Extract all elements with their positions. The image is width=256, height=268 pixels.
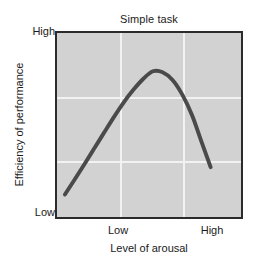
plot-area xyxy=(55,31,243,219)
x-axis-tick-low: Low xyxy=(98,224,138,237)
x-axis-title: Level of arousal xyxy=(55,242,243,255)
chart-title: Simple task xyxy=(55,13,243,26)
y-axis-tick-high: High xyxy=(32,25,55,38)
y-axis-tick-low: Low xyxy=(35,206,55,219)
chart-figure: Simple task High Low Efficiency of perfo… xyxy=(0,0,256,268)
performance-curve-svg xyxy=(57,33,241,217)
plot-inner xyxy=(57,33,241,217)
performance-curve xyxy=(65,71,211,195)
x-axis-tick-high: High xyxy=(192,224,232,237)
y-axis-title: Efficiency of performance xyxy=(13,39,26,211)
